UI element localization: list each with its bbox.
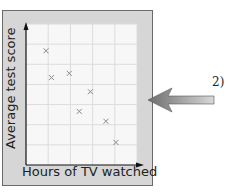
question-number: 2)	[212, 75, 224, 89]
pointer-arrow-icon	[148, 88, 214, 112]
y-axis-label: Average test score	[3, 39, 23, 149]
plot-area	[26, 24, 137, 165]
x-axis-label: Hours of TV watched	[22, 164, 157, 179]
